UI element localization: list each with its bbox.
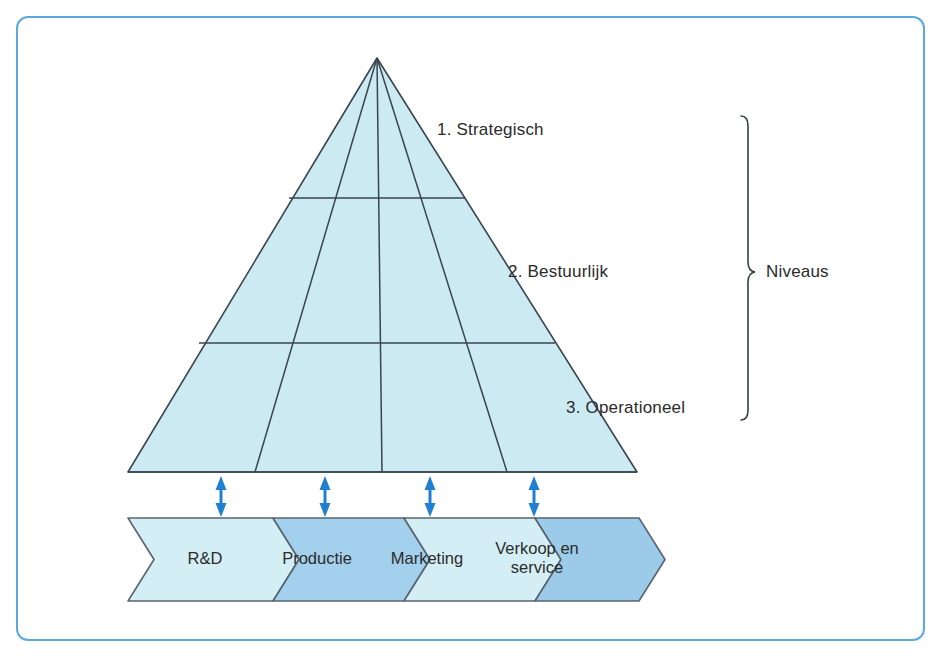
pyramid-level-label-strategisch: 1. Strategisch — [437, 120, 544, 140]
niveaus-bracket-label: Niveaus — [766, 262, 829, 282]
figure-border — [16, 16, 925, 641]
pyramid-level-label-operationeel: 3. Operationeel — [566, 398, 685, 418]
pyramid-level-label-bestuurlijk: 2. Bestuurlijk — [508, 262, 608, 282]
chevron-label-rd: R&D — [150, 549, 260, 568]
chevron-label-productie: Productie — [258, 549, 376, 568]
figure-canvas: 1. Strategisch 2. Bestuurlijk 3. Operati… — [0, 0, 942, 659]
chevron-label-verkoop-en-service: Verkoop en service — [474, 539, 600, 577]
chevron-label-marketing: Marketing — [368, 549, 486, 568]
figure-caption — [22, 648, 922, 659]
